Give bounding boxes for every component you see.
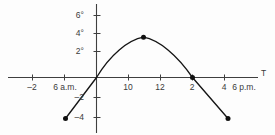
y-tick-label-2: 2° — [62, 47, 84, 56]
x-intercept-marker — [190, 75, 195, 80]
x-tick-label-12: 12 — [146, 83, 174, 92]
y-tick-label-6: 6° — [62, 11, 84, 20]
parabola-plot — [0, 0, 275, 135]
endpoint-marker-right — [226, 116, 231, 121]
y-tick-label-neg4: –4 — [62, 113, 84, 122]
x-tick-label-6pm: 6 p.m. — [206, 83, 275, 92]
x-tick-label-2: 2 — [178, 83, 206, 92]
x-tick-label-10: 10 — [114, 83, 142, 92]
y-tick-label-4: 4° — [62, 29, 84, 38]
graph-figure: 6° 4° 2° –2 –4 –2 6 a.m. 10 12 2 4 6 p.m… — [0, 0, 275, 135]
x-tick-label-neg2: –2 — [18, 83, 46, 92]
x-tick-label-6am: 6 a.m. — [46, 83, 84, 92]
vertex-marker — [141, 35, 146, 40]
x-axis-label: T — [261, 69, 266, 78]
y-tick-label-neg2: –2 — [62, 93, 84, 102]
